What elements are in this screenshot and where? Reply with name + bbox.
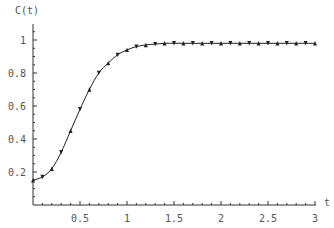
x-axis-label: t (324, 197, 330, 208)
y-tick-label: 0.6 (8, 101, 26, 112)
y-tick-label: 1 (20, 35, 26, 46)
y-axis-label: C(t) (15, 5, 39, 16)
x-tick-label: 0.5 (71, 213, 89, 224)
chart: 0.511.522.530.20.40.60.81tC(t) (0, 0, 334, 228)
x-tick-label: 1.5 (165, 213, 183, 224)
series-line (33, 43, 315, 180)
axes (33, 24, 316, 205)
y-tick-label: 0.4 (8, 134, 26, 145)
data-point-marker (78, 107, 82, 111)
data-point-marker (125, 48, 129, 52)
x-tick-label: 3 (312, 213, 318, 224)
plot-area (31, 41, 317, 182)
labels: 0.511.522.530.20.40.60.81tC(t) (8, 5, 330, 224)
data-point-marker (87, 87, 91, 91)
data-point-marker (40, 175, 44, 179)
data-point-marker (59, 150, 63, 154)
data-point-marker (69, 129, 73, 133)
x-tick-label: 1 (124, 213, 130, 224)
y-tick-label: 0.8 (8, 68, 26, 79)
x-tick-label: 2.5 (259, 213, 277, 224)
y-tick-label: 0.2 (8, 167, 26, 178)
x-tick-label: 2 (218, 213, 224, 224)
